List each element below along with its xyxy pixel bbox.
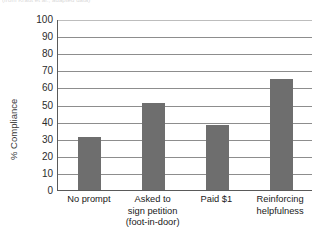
y-tick-label: 20 bbox=[21, 152, 53, 162]
bar bbox=[206, 125, 229, 190]
y-tick-label: 40 bbox=[21, 118, 53, 128]
y-tick-label: 60 bbox=[21, 83, 53, 93]
x-tick-label: Reinforcinghelpfulness bbox=[242, 194, 318, 217]
x-tick-label-line: helpfulness bbox=[242, 206, 318, 218]
y-tick-label: 50 bbox=[21, 101, 53, 111]
y-tick-label: 0 bbox=[21, 186, 53, 196]
y-tick-label: 100 bbox=[21, 15, 53, 25]
y-tick-label: 10 bbox=[21, 169, 53, 179]
bar bbox=[270, 79, 293, 190]
x-axis-tick-labels: No promptAsked tosign petition(foot-in-d… bbox=[57, 194, 312, 240]
y-tick-label: 30 bbox=[21, 135, 53, 145]
x-tick-label-line: Reinforcing bbox=[242, 194, 318, 206]
bar-series bbox=[58, 20, 312, 190]
y-tick-label: 90 bbox=[21, 32, 53, 42]
x-tick-label-line: sign petition bbox=[115, 206, 191, 218]
y-axis-tick-labels: 1009080706050403020100 bbox=[22, 14, 56, 198]
bar bbox=[78, 137, 101, 190]
bar bbox=[142, 103, 165, 190]
plot-area bbox=[57, 20, 312, 191]
bar-chart: % Compliance 1009080706050403020100 No p… bbox=[0, 0, 328, 241]
y-tick-label: 80 bbox=[21, 49, 53, 59]
x-tick-label-line: (foot-in-door) bbox=[115, 217, 191, 229]
y-tick-label: 70 bbox=[21, 66, 53, 76]
